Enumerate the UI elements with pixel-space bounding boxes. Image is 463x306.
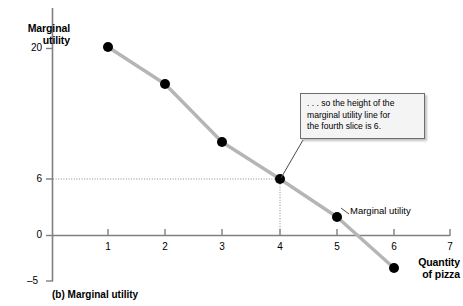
callout-line-2: marginal utility line for <box>307 110 419 122</box>
x-tick-label-3: 3 <box>211 241 233 252</box>
data-point-5 <box>332 212 342 222</box>
callout-leader-line <box>281 140 303 178</box>
x-tick-label-5: 5 <box>326 241 348 252</box>
series-label-leader-line <box>341 208 349 214</box>
data-point-1 <box>103 42 113 52</box>
y-axis-title-line1: Marginal <box>4 22 70 34</box>
x-axis-title: Quantity of pizza <box>390 256 460 280</box>
x-axis-title-line2: of pizza <box>390 268 460 280</box>
x-tick-label-6: 6 <box>383 241 405 252</box>
data-point-3 <box>217 137 227 147</box>
marginal-utility-figure: Marginal utility Quantity of pizza 20 6 … <box>0 0 463 306</box>
data-point-2 <box>160 79 170 89</box>
x-axis-title-line1: Quantity <box>390 256 460 268</box>
y-tick-label-0: 0 <box>18 229 42 240</box>
series-label-marginal-utility: Marginal utility <box>350 205 411 216</box>
figure-caption: (b) Marginal utility <box>52 289 138 300</box>
y-tick-label-minus5: –5 <box>14 275 38 286</box>
x-tick-label-2: 2 <box>154 241 176 252</box>
callout-line-3: the fourth slice is 6. <box>307 121 419 133</box>
callout-line-1: . . . so the height of the <box>307 98 419 110</box>
annotation-callout-box: . . . so the height of the marginal util… <box>300 93 425 139</box>
x-tick-label-4: 4 <box>269 241 291 252</box>
y-tick-label-20: 20 <box>18 42 42 53</box>
data-point-4 <box>275 174 285 184</box>
x-tick-label-7: 7 <box>439 241 461 252</box>
x-tick-label-1: 1 <box>97 241 119 252</box>
y-tick-label-6: 6 <box>18 173 42 184</box>
